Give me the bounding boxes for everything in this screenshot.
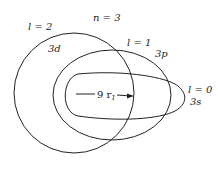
n-label: n = 3 [93, 12, 121, 23]
arrowhead-icon [127, 94, 134, 99]
arrow-label: 9 r1 [97, 89, 116, 102]
bohr-sommerfeld-orbits-diagram: 9 r1 n = 3 l = 2 3d l = 1 3p l = 0 3s [0, 0, 218, 171]
l1-label: l = 1 [127, 37, 151, 48]
orbit-3d-circle [14, 33, 134, 153]
3d-label: 3d [48, 43, 61, 54]
3p-label: 3p [155, 48, 168, 59]
l0-label: l = 0 [188, 84, 213, 95]
l2-label: l = 2 [28, 21, 52, 32]
3s-label: 3s [190, 96, 202, 107]
